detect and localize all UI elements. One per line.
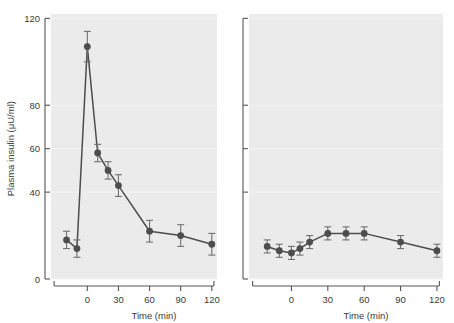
data-point-marker — [115, 182, 122, 189]
panel-right: 0306090120Time (min) — [243, 14, 445, 321]
y-tick-label: 60 — [29, 143, 40, 154]
x-tick-label: 90 — [175, 294, 186, 305]
x-tick-label: 60 — [144, 294, 155, 305]
data-point-marker — [361, 230, 368, 237]
figure-container: 0406080120Plasma insulin (μU/ml)03060901… — [0, 0, 454, 323]
y-tick-label: 0 — [35, 274, 40, 285]
x-axis-title: Time (min) — [343, 310, 388, 321]
y-axis-title: Plasma insulin (μU/ml) — [5, 101, 16, 196]
data-point-marker — [324, 230, 331, 237]
x-tick-label: 120 — [429, 294, 445, 305]
chart-svg: 0406080120Plasma insulin (μU/ml)03060901… — [0, 0, 454, 323]
x-tick-label: 120 — [204, 294, 220, 305]
panel-left: 0406080120Plasma insulin (μU/ml)03060901… — [5, 13, 220, 321]
data-point-marker — [306, 239, 313, 246]
data-point-marker — [63, 237, 70, 244]
y-tick-label: 40 — [29, 187, 40, 198]
data-point-marker — [397, 239, 404, 246]
y-tick-label: 80 — [29, 100, 40, 111]
data-point-marker — [74, 245, 81, 252]
data-point-marker — [297, 245, 304, 252]
data-point-marker — [288, 250, 295, 257]
x-tick-label: 0 — [289, 294, 294, 305]
data-point-marker — [264, 243, 271, 250]
data-point-marker — [105, 167, 112, 174]
data-point-marker — [84, 43, 91, 50]
x-axis-title: Time (min) — [131, 310, 176, 321]
y-tick-label: 120 — [24, 13, 40, 24]
data-point-marker — [146, 228, 153, 235]
x-tick-label: 30 — [113, 294, 124, 305]
data-point-marker — [177, 232, 184, 239]
x-tick-label: 60 — [359, 294, 370, 305]
x-tick-label: 30 — [323, 294, 334, 305]
x-tick-label: 0 — [85, 294, 90, 305]
data-point-marker — [94, 150, 101, 157]
data-point-marker — [434, 247, 441, 254]
data-point-marker — [276, 247, 283, 254]
data-point-marker — [343, 230, 350, 237]
data-point-marker — [208, 241, 215, 248]
x-tick-label: 90 — [395, 294, 406, 305]
